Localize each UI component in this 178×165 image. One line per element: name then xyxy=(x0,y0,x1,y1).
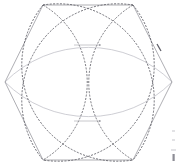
dark-arc-f xyxy=(89,5,133,160)
light-arc-upper xyxy=(5,47,172,82)
edge-marker-group xyxy=(157,44,161,51)
geometric-figure-canvas: Hexagon with inscribed arc rosette xyxy=(0,0,178,165)
dark-arc-a xyxy=(43,4,154,160)
edge-tick-upper-right-icon xyxy=(157,44,161,51)
dark-arc-e xyxy=(43,5,87,160)
corner-block-mark xyxy=(173,154,175,161)
dark-arc-b xyxy=(22,5,133,161)
light-arc-lower xyxy=(5,82,172,117)
dimension-group xyxy=(74,45,101,121)
corner-scale-marks xyxy=(171,131,176,161)
figure-svg: Hexagon with inscribed arc rosette xyxy=(0,0,178,165)
dark-arc-d xyxy=(22,4,133,160)
dark-arc-c xyxy=(43,5,154,161)
dark-arc-group xyxy=(22,4,154,161)
dark-arc-group-secondary xyxy=(43,5,133,160)
